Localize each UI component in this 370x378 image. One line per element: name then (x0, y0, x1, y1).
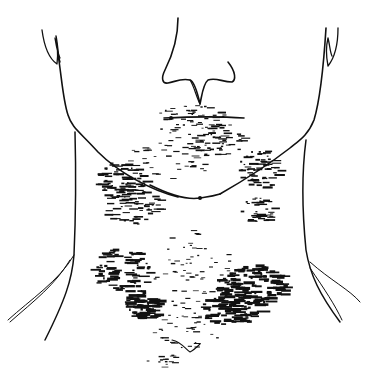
sternal-notch (172, 340, 200, 352)
nose (163, 18, 235, 104)
stippled-shading (91, 106, 293, 367)
mouth (164, 117, 244, 118)
right-ear (327, 28, 339, 66)
right-face-contour (220, 28, 326, 194)
left-neck-line (45, 132, 76, 340)
right-neck-line (303, 140, 340, 322)
neck-illustration (0, 0, 370, 378)
illustration (0, 0, 370, 378)
